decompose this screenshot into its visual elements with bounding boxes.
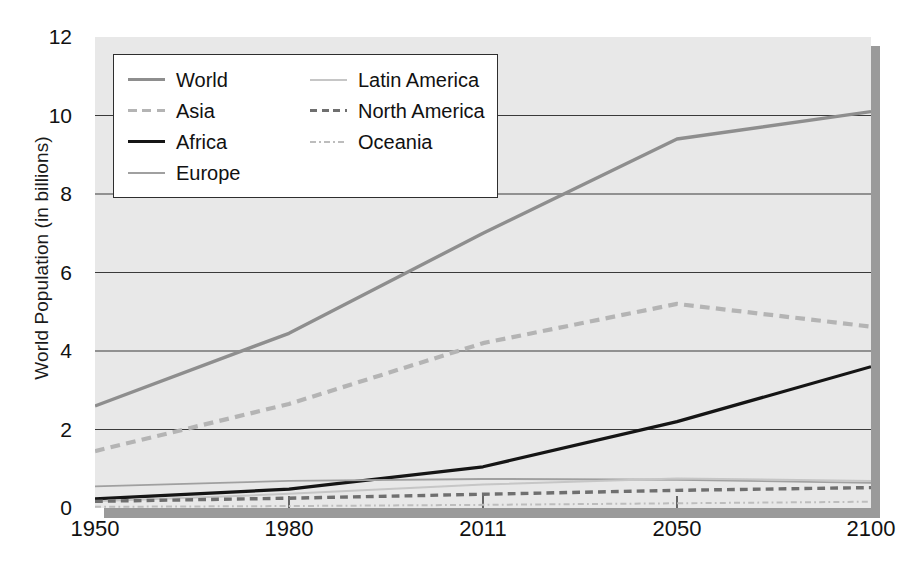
legend-item-label: Oceania — [358, 132, 433, 152]
legend-solid-light-gray-line-icon — [128, 166, 165, 180]
legend-item[interactable]: World — [128, 64, 241, 95]
y-axis-tick-label: 8 — [26, 183, 72, 204]
y-axis-tick-label: 12 — [26, 26, 72, 47]
legend-item[interactable]: Africa — [128, 126, 241, 157]
x-axis-tick-label: 1980 — [265, 516, 314, 542]
legend-column-left: WorldAsiaAfricaEurope — [128, 64, 241, 188]
x-axis-tick-label: 2100 — [847, 516, 896, 542]
legend-item-label: Latin America — [358, 70, 479, 90]
legend-solid-black-line-icon — [128, 135, 165, 149]
legend-item[interactable]: Europe — [128, 157, 241, 188]
y-axis-tick-label: 2 — [26, 419, 72, 440]
y-axis-tick-label: 6 — [26, 262, 72, 283]
y-axis-tick-label: 4 — [26, 340, 72, 361]
legend-item-label: Asia — [176, 101, 215, 121]
y-axis-tick-label: 0 — [26, 497, 72, 518]
legend-swatch-line — [128, 140, 165, 143]
legend: WorldAsiaAfricaEurope Latin AmericaNorth… — [113, 54, 498, 198]
legend-item[interactable]: Latin America — [310, 64, 485, 95]
legend-solid-gray-line-icon — [128, 73, 165, 87]
legend-dashed-dark-gray-line-icon — [310, 104, 347, 118]
legend-column-right: Latin AmericaNorth AmericaOceania — [310, 64, 485, 157]
legend-dashdot-pale-gray-line-icon — [310, 135, 347, 149]
legend-item-label: North America — [358, 101, 485, 121]
x-axis-tick-label: 2050 — [653, 516, 702, 542]
legend-dashed-light-gray-line-icon — [128, 104, 165, 118]
legend-solid-pale-gray-line-icon — [310, 73, 347, 87]
y-axis-tick-label: 10 — [26, 105, 72, 126]
legend-item[interactable]: Oceania — [310, 126, 485, 157]
legend-swatch-line — [310, 79, 347, 81]
legend-item-label: Europe — [176, 163, 241, 183]
y-axis-tick-labels: 024681012 — [20, 0, 72, 565]
legend-item-label: Africa — [176, 132, 227, 152]
legend-item-label: World — [176, 70, 228, 90]
legend-swatch-line — [128, 109, 165, 113]
x-axis-tick-label: 1950 — [71, 516, 120, 542]
chart-figure: World Population (in billions) 024681012… — [0, 0, 915, 565]
legend-swatch-line — [310, 141, 347, 143]
x-axis-tick-label: 2011 — [459, 516, 506, 542]
legend-swatch-line — [128, 78, 165, 81]
legend-swatch-line — [310, 109, 347, 112]
legend-item[interactable]: North America — [310, 95, 485, 126]
legend-swatch-line — [128, 172, 165, 174]
legend-item[interactable]: Asia — [128, 95, 241, 126]
